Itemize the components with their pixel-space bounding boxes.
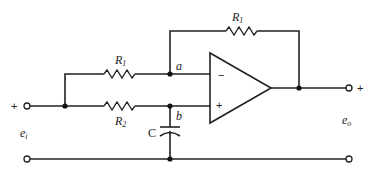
input-plus-sign: + — [11, 100, 17, 112]
output-plus-sign: + — [357, 82, 363, 94]
label-r1-input: R1 — [114, 53, 126, 68]
output-terminal-positive — [346, 85, 352, 91]
opamp-noninverting-sign: + — [216, 99, 222, 111]
label-node-b: b — [176, 109, 182, 123]
label-eo: eo — [342, 113, 351, 128]
input-terminal-positive — [24, 103, 30, 109]
circuit-diagram: − + R1 R1 R2 C a b + ei + eo — [0, 0, 375, 172]
label-c: C — [148, 126, 156, 140]
opamp: − + — [210, 53, 271, 123]
node-a — [167, 71, 172, 76]
r2-path — [30, 102, 210, 110]
junction-input — [62, 103, 67, 108]
junction-output — [296, 85, 301, 90]
node-b — [167, 103, 172, 108]
label-ei: ei — [20, 126, 28, 141]
junction-ground — [167, 156, 172, 161]
resistor-r1-input — [104, 70, 135, 78]
label-node-a: a — [176, 59, 182, 73]
input-r1-path — [65, 70, 210, 106]
label-r2: R2 — [114, 114, 126, 129]
resistor-r2 — [104, 102, 135, 110]
output-terminal-ground — [346, 156, 352, 162]
label-r1-feedback: R1 — [231, 10, 243, 25]
input-terminal-ground — [24, 156, 30, 162]
resistor-r1-feedback — [226, 27, 257, 35]
opamp-inverting-sign: − — [218, 69, 224, 81]
